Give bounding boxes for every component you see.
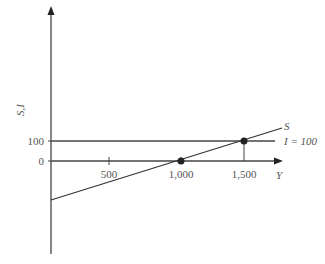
y-axis-label: S,I [14,103,26,116]
x-tick-label-500: 500 [101,168,118,180]
i-line-label: I = 100 [283,135,318,147]
x-axis-arrow-icon [274,158,283,165]
y-axis-arrow-icon [48,6,55,15]
chart-canvas: 500 1,000 1,500 100 0 S I = 100 Y S,I [0,0,325,264]
point-1500-100 [241,138,248,145]
y-tick-label-100: 100 [28,135,45,147]
saving-line [51,128,282,200]
point-1000-0 [178,158,185,165]
s-line-label: S [284,120,290,132]
x-tick-label-1000: 1,000 [169,168,194,180]
x-axis-label: Y [276,169,284,181]
x-tick-label-1500: 1,500 [232,168,257,180]
y-tick-label-0: 0 [39,155,45,167]
